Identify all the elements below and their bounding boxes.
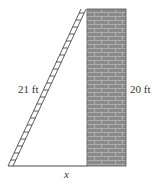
brick-wall bbox=[87, 9, 126, 166]
ground-distance-label: x bbox=[64, 168, 69, 180]
ladder-length-label: 21 ft bbox=[18, 83, 38, 95]
wall-height-label: 20 ft bbox=[130, 83, 150, 95]
